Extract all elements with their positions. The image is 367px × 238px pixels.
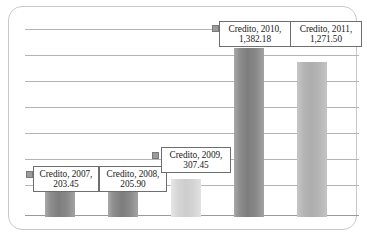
chart-frame: Credito, 2007, 203.45 Credito, 2008, 205… <box>8 6 357 230</box>
data-label-2008-line2: 205.90 <box>102 179 164 190</box>
data-label-2007[interactable]: Credito, 2007, 203.45 <box>33 166 99 192</box>
bar-2008[interactable] <box>108 192 138 217</box>
data-label-2010-line1: Credito, 2010, <box>222 24 288 35</box>
data-label-2009[interactable]: Credito, 2009, 307.45 <box>161 147 231 173</box>
bar-2007[interactable] <box>45 192 75 217</box>
data-label-2011[interactable]: Credito, 2011, 1,271.50 <box>290 21 362 47</box>
data-label-2010[interactable]: Credito, 2010, 1,382.18 <box>219 21 291 47</box>
bar-2010[interactable] <box>234 48 264 217</box>
data-label-2008[interactable]: Credito, 2008, 205.90 <box>99 166 167 192</box>
data-label-2007-line2: 203.45 <box>36 179 96 190</box>
gridline-6 <box>25 55 359 56</box>
series-marker-2007 <box>26 171 33 178</box>
data-label-2011-line2: 1,271.50 <box>293 34 359 45</box>
data-label-2011-line1: Credito, 2011, <box>293 24 359 35</box>
series-marker-2009 <box>152 152 159 159</box>
data-label-2009-line1: Credito, 2009, <box>164 150 228 161</box>
data-label-2007-line1: Credito, 2007, <box>36 169 96 180</box>
series-marker-2010 <box>212 25 219 32</box>
plot-area: Credito, 2007, 203.45 Credito, 2008, 205… <box>25 21 359 217</box>
bar-2009[interactable] <box>171 179 201 217</box>
data-label-2008-line1: Credito, 2008, <box>102 169 164 180</box>
data-label-2010-line2: 1,382.18 <box>222 34 288 45</box>
data-label-2009-line2: 307.45 <box>164 160 228 171</box>
bar-2011[interactable] <box>297 62 327 217</box>
